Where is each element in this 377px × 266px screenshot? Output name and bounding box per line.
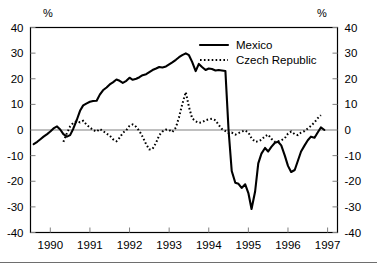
y-tick-label-left: -20 [7, 175, 24, 187]
y-tick-label-right: 40 [345, 22, 358, 34]
series-line-mexico [34, 53, 325, 209]
x-tick-label: 1992 [117, 239, 143, 251]
y-tick-label-right: 0 [345, 124, 351, 136]
y-tick-label-left: -10 [7, 150, 24, 162]
series-container [34, 53, 325, 209]
y-tick-label-left: 20 [11, 73, 24, 85]
x-axis: 19901991199219931994199519961997 [38, 228, 341, 251]
chart-legend: MexicoCzech Republic [200, 39, 317, 66]
legend-label-czech-republic: Czech Republic [236, 54, 317, 66]
legend-label-mexico: Mexico [236, 39, 272, 51]
x-tick-label: 1996 [275, 239, 301, 251]
y-tick-label-left: 40 [11, 22, 24, 34]
y-axis-unit-right: % [317, 7, 327, 19]
y-axis-unit-left: % [43, 7, 53, 19]
x-tick-label: 1994 [196, 239, 222, 251]
y-tick-label-right: 10 [345, 98, 358, 110]
x-tick-label: 1991 [77, 239, 103, 251]
footer-divider [0, 262, 377, 263]
y-tick-label-right: -40 [345, 227, 362, 239]
y-tick-label-right: 30 [345, 47, 358, 59]
series-line-czech-republic [63, 92, 320, 149]
x-tick-label: 1995 [236, 239, 262, 251]
line-chart: 404030302020101000-10-10-20-20-30-30-40-… [0, 0, 377, 266]
y-tick-label-left: -30 [7, 201, 24, 213]
y-tick-label-left: -40 [7, 227, 24, 239]
x-tick-label: 1997 [315, 239, 341, 251]
x-tick-label: 1990 [38, 239, 64, 251]
x-tick-label: 1993 [156, 239, 182, 251]
y-tick-label-right: -30 [345, 201, 362, 213]
chart-figure: 404030302020101000-10-10-20-20-30-30-40-… [0, 0, 377, 266]
y-tick-label-left: 30 [11, 47, 24, 59]
y-tick-label-right: -20 [345, 175, 362, 187]
y-tick-label-left: 10 [11, 98, 24, 110]
y-tick-label-left: 0 [17, 124, 23, 136]
y-tick-label-right: -10 [345, 150, 362, 162]
y-tick-label-right: 20 [345, 73, 358, 85]
